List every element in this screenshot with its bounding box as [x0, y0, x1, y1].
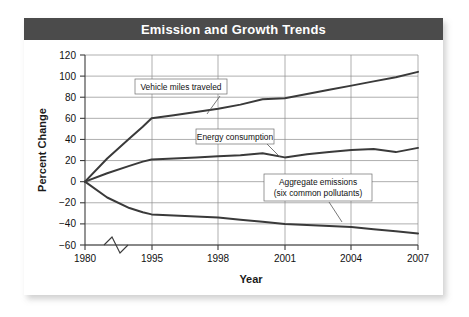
y-tick-label: 60: [65, 113, 77, 124]
y-tick-label: 120: [59, 50, 76, 61]
vehicle-miles-traveled-label: Vehicle miles traveled: [141, 82, 222, 92]
y-tick-label: −20: [59, 197, 76, 208]
x-tick-label: 2007: [407, 253, 430, 264]
energy-consumption-label: Energy consumption: [197, 132, 274, 142]
x-tick-labels: 1980 1995 1998 2001 2004 2007: [74, 253, 430, 264]
y-tick-label: 80: [65, 92, 77, 103]
x-tick-label: 1998: [207, 253, 230, 264]
y-tick-label: 20: [65, 155, 77, 166]
x-tick-label: 2001: [274, 253, 297, 264]
aggregate-emissions-label-line2: (six common pollutants): [274, 188, 363, 198]
y-tick-marks: [80, 55, 85, 245]
y-tick-labels: 120 100 80 60 40 20 0 −20 −40 −60: [59, 50, 76, 251]
aggregate-emissions-label-line1: Aggregate emissions: [279, 177, 357, 187]
y-tick-label: 40: [65, 134, 77, 145]
chart-plot-container: 120 100 80 60 40 20 0 −20 −40 −60 1980 1…: [24, 40, 443, 295]
x-tick-label: 2004: [340, 253, 363, 264]
chart-card: Emission and Growth Trends: [24, 18, 443, 295]
x-tick-label: 1995: [141, 253, 164, 264]
emission-growth-line-chart: 120 100 80 60 40 20 0 −20 −40 −60 1980 1…: [24, 40, 443, 295]
page-title: Emission and Growth Trends: [141, 22, 326, 37]
chart-title-banner: Emission and Growth Trends: [24, 18, 443, 40]
y-tick-label: −40: [59, 218, 76, 229]
figure-root: Emission and Growth Trends: [0, 0, 469, 317]
y-tick-label: 100: [59, 71, 76, 82]
x-tick-marks: [85, 245, 418, 250]
x-tick-label: 1980: [74, 253, 97, 264]
y-tick-label: 0: [70, 176, 76, 187]
x-axis-title: Year: [239, 273, 263, 285]
y-axis-title: Percent Change: [36, 108, 48, 192]
y-tick-label: −60: [59, 240, 76, 251]
